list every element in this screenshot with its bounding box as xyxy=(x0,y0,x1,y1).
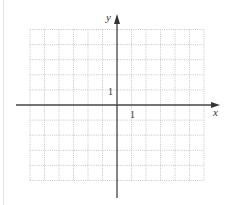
x-unit-label: 1 xyxy=(130,109,135,120)
coordinate-plane: x y 1 1 xyxy=(0,0,232,205)
y-axis-label: y xyxy=(105,11,111,23)
x-axis-label: x xyxy=(212,106,218,118)
y-unit-label: 1 xyxy=(108,86,113,97)
y-axis-arrow-icon xyxy=(114,14,120,24)
